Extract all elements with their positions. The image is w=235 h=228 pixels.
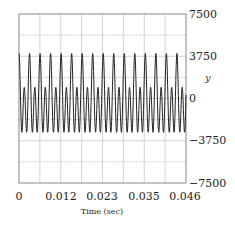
y-tick-label: −3750 xyxy=(189,134,226,147)
x-tick-label: 0.023 xyxy=(86,190,118,203)
x-tick-label: 0 xyxy=(16,190,23,203)
x-axis-ticks: 0 0.012 0.023 0.035 0.046 xyxy=(16,190,201,203)
x-tick-label: 0.046 xyxy=(169,190,201,203)
x-axis-label: Time (sec) xyxy=(81,207,123,216)
y-tick-label: 3750 xyxy=(189,50,217,63)
y-tick-label: −7500 xyxy=(189,177,226,190)
x-tick-label: 0.035 xyxy=(128,190,160,203)
y-tick-label: 7500 xyxy=(189,8,217,21)
line-chart: 7500 3750 0 −3750 −7500 y 0 0.012 0.023 … xyxy=(0,0,235,228)
x-tick-label: 0.012 xyxy=(45,190,77,203)
y-axis-ticks: 7500 3750 0 −3750 −7500 xyxy=(189,8,226,190)
y-tick-label: 0 xyxy=(189,92,196,105)
y-axis-label: y xyxy=(204,72,211,83)
